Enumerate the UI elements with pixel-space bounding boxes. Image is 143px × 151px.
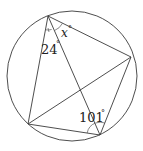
angle-x-label: x [61,26,68,40]
circle-geometry-diagram: x ° 24 ° 101 ° [0,0,143,151]
side-bottomleft-top [28,16,48,124]
angle-x-degree: ° [68,24,72,33]
angle-tick-24 [48,28,49,32]
side-bottomright-bottomleft [28,124,100,135]
angle-24-degree: ° [56,39,60,48]
angle-101-degree: ° [101,108,105,117]
circumcircle [7,11,137,141]
